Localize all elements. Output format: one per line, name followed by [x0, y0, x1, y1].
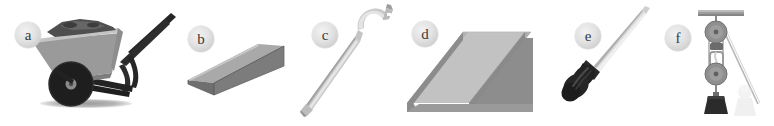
panel-label-d: d — [412, 21, 438, 47]
crowbar-illustration — [300, 0, 405, 126]
wheelbarrow-illustration — [0, 0, 180, 126]
figure-panel-inclined-plane: d — [405, 0, 560, 126]
panel-label-e: e — [575, 23, 601, 49]
panel-label-c: c — [312, 22, 338, 48]
simple-machines-figure-strip: a — [0, 0, 774, 126]
figure-panel-crowbar: c — [300, 0, 405, 126]
screwdriver-illustration — [560, 0, 660, 126]
figure-panel-wheelbarrow: a — [0, 0, 180, 126]
panel-label-f: f — [665, 25, 691, 51]
panel-label-b: b — [188, 26, 214, 52]
figure-panel-pulley-system: f — [660, 0, 774, 126]
panel-label-a: a — [15, 22, 41, 48]
pulley-system-illustration — [660, 0, 774, 126]
figure-panel-wedge: b — [180, 0, 300, 126]
inclined-plane-illustration — [405, 0, 560, 126]
wedge-block-illustration — [180, 0, 300, 126]
figure-panel-screwdriver: e — [560, 0, 660, 126]
